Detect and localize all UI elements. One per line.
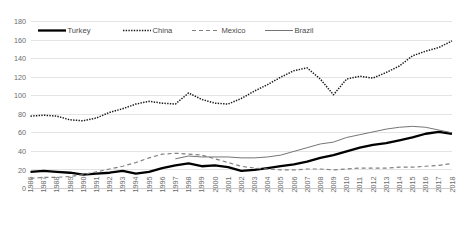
y-axis-tick-label: 40	[18, 147, 26, 156]
series-group	[31, 41, 453, 178]
x-axis-tick-label: 2004	[263, 177, 272, 193]
y-axis-tick-label: 60	[18, 128, 26, 137]
x-axis-tick-label: 2009	[329, 177, 338, 193]
x-axis-tick-label: 2003	[250, 177, 259, 193]
x-axis-tick-label: 2007	[303, 177, 312, 193]
x-axis-tick-label: 1988	[52, 177, 61, 193]
x-axis-tick-label: 1996	[158, 177, 167, 193]
x-axis-tick-label: 2016	[421, 177, 430, 193]
x-axis-tick-label: 2000	[211, 177, 220, 193]
x-axis-labels-group: 1986198719881989199019911992199319941995…	[26, 177, 457, 193]
x-axis-tick-label: 1997	[171, 177, 180, 193]
x-axis-tick-label: 2008	[316, 177, 325, 193]
x-axis-tick-label: 1992	[105, 177, 114, 193]
x-axis-tick-label: 2001	[224, 177, 233, 193]
x-axis-tick-label: 2011	[355, 177, 364, 192]
x-axis-tick-label: 2005	[276, 177, 285, 193]
y-axis-tick-label: 20	[18, 166, 26, 175]
x-axis-tick-label: 2013	[382, 177, 391, 193]
series-line-turkey	[31, 132, 453, 175]
legend-label-turkey[interactable]: Turkey	[68, 26, 91, 35]
x-axis-tick-label: 2018	[448, 177, 457, 193]
y-axis-labels-group: 020406080100120140160180	[14, 17, 26, 193]
x-axis-tick-label: 1986	[26, 177, 35, 193]
y-axis-tick-label: 140	[14, 54, 26, 63]
y-axis-tick-label: 80	[18, 110, 26, 119]
x-axis-tick-label: 2010	[342, 177, 351, 193]
y-axis-tick-label: 120	[14, 73, 26, 82]
x-axis-tick-label: 2015	[408, 177, 417, 193]
gridlines-group	[31, 22, 453, 189]
x-axis-tick-label: 1989	[66, 177, 75, 193]
x-axis-tick-label: 2006	[290, 177, 299, 193]
legend-label-china[interactable]: China	[153, 26, 174, 35]
line-chart: 020406080100120140160180 198619871988198…	[0, 0, 457, 226]
x-axis-tick-label: 2017	[434, 177, 443, 193]
x-axis-tick-label: 1999	[197, 177, 206, 193]
y-axis-tick-label: 180	[14, 17, 26, 26]
x-axis-tick-label: 1990	[79, 177, 88, 193]
x-axis-tick-label: 1993	[118, 177, 127, 193]
series-line-china	[31, 41, 453, 121]
legend-label-brazil[interactable]: Brazil	[295, 26, 314, 35]
legend-label-mexico[interactable]: Mexico	[222, 26, 246, 35]
y-axis-tick-label: 160	[14, 36, 26, 45]
x-axis-tick-label: 2014	[395, 177, 404, 193]
x-axis-tick-label: 2012	[369, 177, 378, 193]
x-axis-tick-label: 1994	[131, 177, 140, 193]
x-axis-tick-label: 1995	[145, 177, 154, 193]
y-axis-tick-label: 100	[14, 91, 26, 100]
x-axis-tick-label: 2002	[237, 177, 246, 193]
chart-canvas: 020406080100120140160180 198619871988198…	[0, 0, 457, 226]
x-axis-tick-label: 1998	[184, 177, 193, 193]
legend-group: TurkeyChinaMexicoBrazil	[38, 26, 314, 35]
x-axis-tick-label: 1991	[92, 177, 101, 193]
series-line-brazil	[175, 126, 452, 158]
x-axis-tick-label: 1987	[39, 177, 48, 193]
